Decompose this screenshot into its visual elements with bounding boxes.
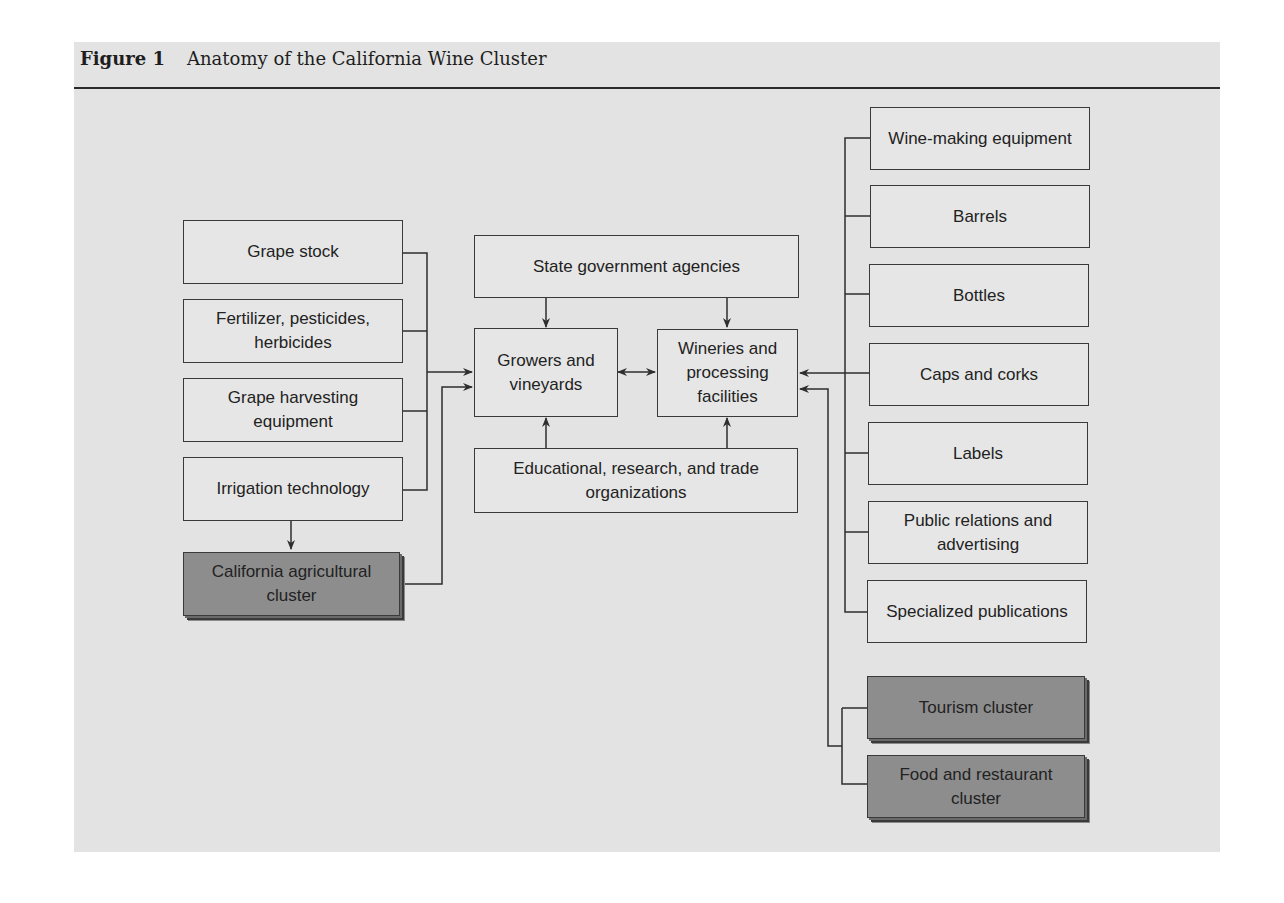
pr-advertising-box: Public relations and advertising (868, 501, 1088, 564)
food-restaurant-cluster-box: Food and restaurant cluster (867, 755, 1085, 818)
wineries-label: Wineries and processing facilities (664, 337, 791, 409)
wine-making-equipment-box: Wine-making equipment (870, 107, 1090, 170)
wine-making-equipment-label: Wine-making equipment (888, 127, 1071, 151)
wineries-box: Wineries and processing facilities (657, 329, 798, 417)
growers-label: Growers and vineyards (481, 349, 611, 397)
grape-stock-box: Grape stock (183, 220, 403, 284)
figure-label: Figure 1 (80, 48, 165, 69)
figure-caption: Anatomy of the California Wine Cluster (187, 48, 546, 69)
fertilizer-label: Fertilizer, pesticides, herbicides (190, 307, 396, 355)
tourism-cluster-box: Tourism cluster (867, 676, 1085, 739)
ag-cluster-box: California agricultural cluster (183, 552, 400, 616)
harvesting-box: Grape harvesting equipment (183, 378, 403, 442)
specialized-publications-label: Specialized publications (886, 600, 1067, 624)
pr-advertising-label: Public relations and advertising (875, 509, 1081, 557)
harvesting-label: Grape harvesting equipment (190, 386, 396, 434)
irrigation-label: Irrigation technology (216, 477, 369, 501)
food-restaurant-cluster-label: Food and restaurant cluster (874, 763, 1078, 811)
education-label: Educational, research, and trade organiz… (481, 457, 791, 505)
caps-corks-label: Caps and corks (920, 363, 1038, 387)
title-rule (74, 87, 1220, 89)
figure-title: Figure 1Anatomy of the California Wine C… (80, 48, 547, 69)
grape-stock-label: Grape stock (247, 240, 339, 264)
growers-box: Growers and vineyards (474, 328, 618, 417)
labels-label: Labels (953, 442, 1003, 466)
barrels-box: Barrels (870, 185, 1090, 248)
fertilizer-box: Fertilizer, pesticides, herbicides (183, 299, 403, 363)
tourism-cluster-label: Tourism cluster (919, 696, 1033, 720)
state-government-label: State government agencies (533, 255, 740, 279)
bottles-box: Bottles (869, 264, 1089, 327)
irrigation-box: Irrigation technology (183, 457, 403, 521)
ag-cluster-label: California agricultural cluster (190, 560, 393, 608)
caps-corks-box: Caps and corks (869, 343, 1089, 406)
education-box: Educational, research, and trade organiz… (474, 448, 798, 513)
specialized-publications-box: Specialized publications (867, 580, 1087, 643)
barrels-label: Barrels (953, 205, 1007, 229)
bottles-label: Bottles (953, 284, 1005, 308)
state-government-box: State government agencies (474, 235, 799, 298)
labels-box: Labels (868, 422, 1088, 485)
